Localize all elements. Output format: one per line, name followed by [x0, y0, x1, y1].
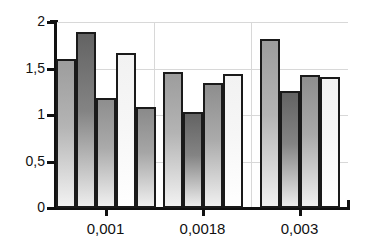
y-tick-label-3: 1,5: [26, 61, 45, 75]
y-tick-4: [47, 21, 55, 24]
x-axis-right-cap: [347, 200, 350, 210]
y-tick-0: [47, 207, 55, 210]
bar-group-1-item-3: [223, 74, 243, 208]
y-tick-2: [47, 114, 55, 117]
y-axis-labels: 00,511,52: [0, 0, 45, 252]
bar-group-0-item-0: [56, 59, 76, 208]
bar-group-2-item-3: [320, 77, 340, 208]
x-tick-label-2: 0,003: [250, 221, 350, 236]
y-tick-label-2: 1: [37, 107, 45, 121]
bar-group-2-item-2: [300, 75, 320, 208]
bar-group-0-item-2: [96, 98, 116, 208]
gridline-y-4: [57, 22, 348, 23]
plot-area: [57, 22, 348, 208]
bar-chart: 00,511,52 0,0010,00180,003: [0, 0, 367, 252]
y-tick-1: [47, 161, 55, 164]
bar-group-0-item-4: [136, 107, 156, 208]
x-tick-label-1: 0,0018: [153, 221, 253, 236]
y-tick-label-1: 0,5: [26, 154, 45, 168]
bar-group-1-item-2: [203, 83, 223, 208]
gridline-y-3: [57, 69, 348, 70]
bar-group-2-item-1: [280, 91, 300, 208]
bar-group-1-item-1: [183, 112, 203, 208]
x-tick-1: [202, 209, 205, 216]
y-tick-label-4: 2: [37, 14, 45, 28]
x-tick-0: [105, 209, 108, 216]
x-tick-2: [299, 209, 302, 216]
y-tick-3: [47, 68, 55, 71]
gridline-x-2: [251, 22, 252, 208]
y-tick-label-0: 0: [37, 200, 45, 214]
bar-group-0-item-3: [116, 53, 136, 208]
bar-group-1-item-0: [163, 72, 183, 208]
bar-group-2-item-0: [260, 39, 280, 208]
x-tick-label-0: 0,001: [56, 221, 156, 236]
bar-group-0-item-1: [76, 32, 96, 208]
